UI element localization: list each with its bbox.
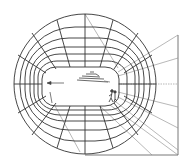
standing-figure-icon: [109, 90, 117, 102]
inner-opening: [42, 67, 119, 106]
diagram-canvas: [0, 0, 187, 167]
perspective-grid-diagram: [0, 0, 187, 167]
grid-spokes: [14, 14, 156, 154]
ship-icon: [77, 72, 110, 82]
left-arrow-icon: [47, 82, 64, 104]
radial-lines: [55, 14, 178, 155]
